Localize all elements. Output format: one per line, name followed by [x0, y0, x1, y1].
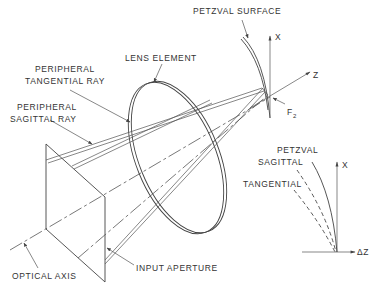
label-petzval-surface: PETZVAL SURFACE — [193, 6, 281, 16]
leader-tangential — [70, 90, 130, 122]
leader-petzval — [242, 20, 248, 38]
lower-rays — [78, 88, 268, 264]
label-sagittal-1: PERIPHERAL — [17, 102, 77, 112]
label-tangential-1: PERIPHERAL — [35, 64, 95, 74]
label-sagittal-2: SAGITTAL RAY — [10, 114, 77, 124]
leader-lens — [154, 64, 162, 82]
optics-diagram: PETZVAL SURFACE LENS ELEMENT PERIPHERAL … — [0, 0, 375, 290]
label-lens-element: LENS ELEMENT — [125, 53, 197, 63]
inset-sagittal-curve — [297, 170, 336, 252]
label-inset-x: X — [342, 160, 348, 170]
label-axis-z: Z — [313, 70, 319, 80]
label-optical-axis: OPTICAL AXIS — [12, 271, 77, 281]
label-inset-sagittal: SAGITTAL — [258, 157, 303, 167]
label-focal-sub: 2 — [293, 113, 297, 119]
label-axis-x: X — [275, 32, 281, 42]
z-axis — [250, 72, 310, 108]
inset-tangential-curve — [294, 190, 335, 252]
label-focal-point: F — [287, 107, 293, 117]
label-tangential-2: TANGENTIAL RAY — [25, 76, 105, 86]
sagittal-ray — [72, 100, 212, 169]
field-curvature-inset — [294, 162, 355, 252]
lens-element-shape — [109, 68, 246, 247]
label-input-aperture: INPUT APERTURE — [136, 263, 218, 273]
label-inset-tangential: TANGENTIAL — [243, 179, 302, 189]
leader-optical-axis — [24, 243, 38, 268]
label-inset-petzval: PETZVAL — [277, 145, 318, 155]
leader-aperture — [107, 248, 134, 265]
inset-petzval-curve — [312, 162, 337, 252]
leader-focal — [273, 98, 285, 104]
label-inset-dz: ΔZ — [357, 247, 369, 257]
